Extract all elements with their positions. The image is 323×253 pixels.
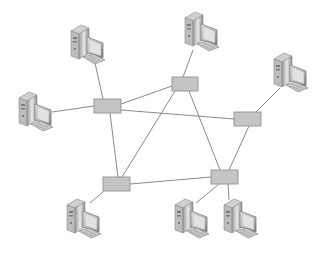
computer-icon [274, 53, 308, 92]
edge-hub4-hub5 [130, 177, 211, 184]
network-diagram [0, 0, 323, 253]
edge-hub3-hub5 [229, 126, 249, 170]
hub-node-hub1 [94, 99, 121, 113]
edge-pc7-hub5 [228, 184, 229, 200]
hub-node-hub4 [103, 177, 130, 191]
hub-node-hub5 [211, 170, 238, 184]
edge-pc3-hub2 [183, 50, 193, 77]
edge-hub1-hub2 [121, 86, 172, 104]
edge-hub1-hub4 [110, 113, 118, 177]
computer-icon [19, 92, 53, 131]
hub-nodes [94, 77, 261, 191]
edge-hub2-hub4 [122, 91, 175, 177]
network-diagram-svg [0, 0, 323, 253]
computer-icon [224, 199, 258, 238]
edge-pc4-hub3 [256, 88, 280, 112]
computer-icon [175, 199, 209, 238]
edge-pc5-hub4 [90, 191, 104, 203]
computer-icon [71, 25, 105, 64]
edge-hub2-hub5 [189, 91, 220, 170]
computer-nodes [19, 12, 308, 238]
edge-pc2-hub1 [52, 106, 94, 112]
hub-node-hub3 [234, 112, 261, 126]
edge-pc1-hub1 [95, 63, 103, 99]
hub-node-hub2 [172, 77, 198, 91]
edge-pc6-hub5 [196, 184, 219, 203]
computer-icon [185, 12, 219, 51]
computer-icon [67, 199, 101, 238]
edge-hub1-hub3 [121, 110, 234, 119]
